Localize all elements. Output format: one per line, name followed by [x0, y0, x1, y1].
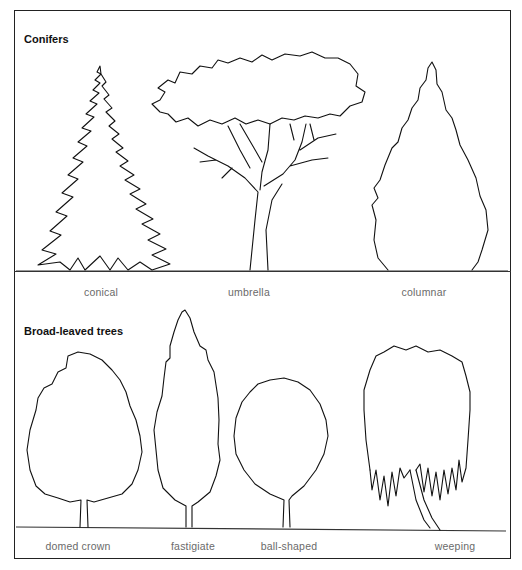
caption-umbrella: umbrella [228, 286, 270, 298]
fastigiate-tree-icon [154, 310, 220, 527]
caption-weeping: weeping [435, 540, 476, 552]
ground-line-broadleaved [16, 527, 506, 531]
ball-shaped-tree-icon [234, 378, 328, 527]
umbrella-tree-icon [152, 52, 365, 270]
section-title-broad-leaved: Broad-leaved trees [24, 325, 123, 337]
caption-columnar: columnar [402, 286, 447, 298]
domed-crown-tree-icon [27, 352, 142, 527]
caption-conical: conical [84, 286, 118, 298]
caption-fastigiate: fastigiate [171, 540, 215, 552]
conical-tree-icon [38, 66, 170, 270]
columnar-tree-icon [372, 62, 488, 270]
caption-ball-shaped: ball-shaped [261, 540, 318, 552]
section-divider [14, 271, 511, 272]
caption-domed-crown: domed crown [45, 540, 110, 552]
tree-illustrations [0, 0, 522, 570]
weeping-tree-icon [364, 346, 470, 530]
